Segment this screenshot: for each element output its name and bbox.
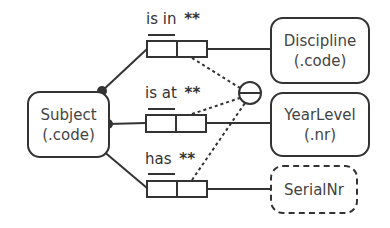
entity-discipline[interactable]: Discipline (.code): [270, 17, 370, 84]
fact-reading-is-in: is in **: [146, 10, 200, 28]
fact-type-has[interactable]: [147, 174, 207, 197]
entity-serialnr[interactable]: SerialNr: [270, 165, 358, 214]
constraint-mark: **: [179, 150, 195, 168]
entity-yearlevel[interactable]: YearLevel (.nr): [270, 92, 370, 157]
reading-text: has: [145, 150, 172, 168]
fact-type-is-in[interactable]: [147, 35, 207, 57]
entity-subject[interactable]: Subject (.code): [27, 91, 110, 158]
entity-ref: (.code): [294, 51, 347, 71]
entity-name: SerialNr: [284, 180, 344, 200]
connector-subject-isat: [108, 123, 146, 124]
fact-reading-is-at: is at **: [145, 84, 200, 102]
fact-type-is-at[interactable]: [146, 109, 206, 132]
fact-reading-has: has **: [145, 150, 195, 168]
constraint-mark: **: [184, 10, 200, 28]
reading-text: is at: [145, 84, 177, 102]
entity-ref: (.nr): [304, 125, 336, 145]
constraint-mark: **: [185, 84, 201, 102]
entity-name: Subject: [40, 105, 96, 125]
entity-name: YearLevel: [284, 105, 355, 125]
entity-ref: (.code): [42, 125, 95, 145]
external-uniqueness-icon[interactable]: [239, 82, 261, 104]
connector-subject-has: [102, 150, 147, 188]
connector-subject-isin: [102, 49, 147, 91]
entity-name: Discipline: [284, 31, 357, 51]
reading-text: is in: [146, 10, 176, 28]
